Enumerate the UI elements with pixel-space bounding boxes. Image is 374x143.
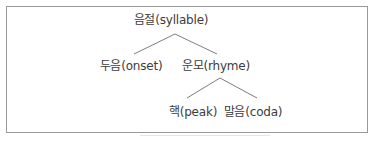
- node-peak: 핵(peak): [169, 105, 217, 119]
- edge-root-onset: [134, 34, 175, 54]
- node-coda: 말음(coda): [224, 105, 283, 119]
- edge-root-rhyme: [175, 34, 217, 54]
- edge-rhyme-coda: [220, 78, 257, 98]
- node-rhyme: 운모(rhyme): [182, 59, 250, 73]
- bottom-divider: [140, 135, 270, 136]
- node-onset: 두음(onset): [100, 59, 163, 73]
- node-syllable: 음절(syllable): [134, 13, 209, 27]
- edge-rhyme-peak: [187, 78, 220, 98]
